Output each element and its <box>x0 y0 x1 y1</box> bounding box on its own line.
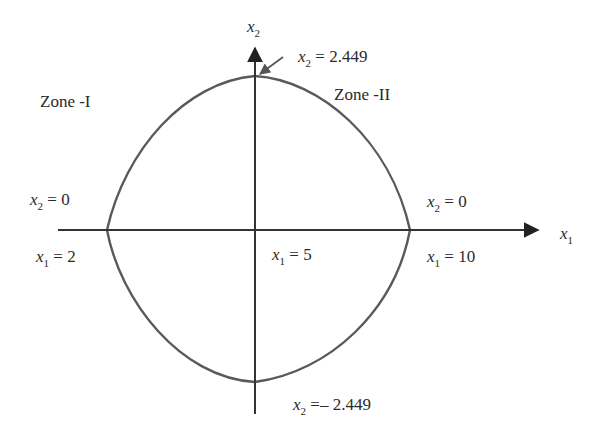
x1-max-annotation: x1 = 10 <box>426 247 475 269</box>
top-pointer-arrow <box>260 57 283 74</box>
right-x2-zero-annotation: x2 = 0 <box>426 192 467 214</box>
x2-axis-label: x2 <box>246 17 260 39</box>
x1-axis-label: x1 <box>559 224 573 246</box>
zone-1-label: Zone -I <box>40 92 91 111</box>
left-x2-zero-annotation: x2 = 0 <box>29 190 70 212</box>
x1-min-annotation: x1 = 2 <box>35 247 76 269</box>
x2-min-annotation: x2 =– 2.449 <box>292 395 371 417</box>
x1-center-annotation: x1 = 5 <box>271 245 312 267</box>
zone-2-label: Zone -II <box>334 85 391 104</box>
diagram: x2 x1 Zone -I Zone -II x2 = 2.449 x2 = 0… <box>0 0 601 438</box>
x2-max-annotation: x2 = 2.449 <box>297 47 367 69</box>
